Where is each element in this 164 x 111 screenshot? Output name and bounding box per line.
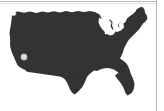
map-thumbnail-canvas <box>0 0 164 111</box>
us-map-svg <box>0 0 164 111</box>
us-map-graphic <box>0 0 164 111</box>
location-marker-icon <box>21 54 27 60</box>
